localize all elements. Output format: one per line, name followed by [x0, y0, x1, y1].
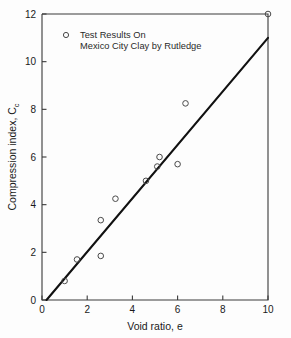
x-tick-label: 6: [175, 304, 181, 315]
legend-marker-icon: [63, 32, 68, 37]
y-tick-label: 12: [25, 9, 37, 20]
data-point-marker: [175, 161, 181, 167]
y-tick-label: 4: [30, 199, 36, 210]
x-axis-title: Void ratio, e: [127, 320, 183, 332]
y-axis-title: Compression index, Cc: [6, 103, 21, 210]
y-tick-label: 0: [30, 295, 36, 306]
y-tick-label: 6: [30, 152, 36, 163]
scatter-plot-svg: 0246810 024681012 Test Results On Mexico…: [0, 0, 291, 338]
data-point-marker: [98, 217, 104, 223]
data-point-markers: [62, 11, 271, 284]
data-point-marker: [183, 101, 189, 107]
x-tick-label: 0: [39, 304, 45, 315]
legend: Test Results On Mexico City Clay by Rutl…: [63, 30, 201, 51]
data-point-marker: [157, 154, 163, 160]
y-axis-title-group: Compression index, Cc: [6, 103, 21, 210]
y-axis-tick-labels: 024681012: [25, 9, 37, 306]
data-point-marker: [113, 196, 119, 202]
data-point-marker: [74, 257, 80, 263]
y-tick-label: 10: [25, 56, 37, 67]
x-tick-label: 2: [84, 304, 90, 315]
y-tick-label: 8: [30, 104, 36, 115]
chart-figure: 0246810 024681012 Test Results On Mexico…: [0, 0, 291, 338]
y-axis-ticks: [42, 14, 47, 300]
y-tick-label: 2: [30, 247, 36, 258]
x-tick-label: 8: [220, 304, 226, 315]
data-point-marker: [98, 253, 104, 259]
legend-label-line2: Mexico City Clay by Rutledge: [80, 41, 201, 51]
x-axis-ticks: [42, 296, 268, 301]
x-tick-label: 10: [262, 304, 274, 315]
x-tick-label: 4: [130, 304, 136, 315]
legend-label-line1: Test Results On: [80, 30, 146, 40]
x-axis-tick-labels: 0246810: [39, 304, 274, 315]
